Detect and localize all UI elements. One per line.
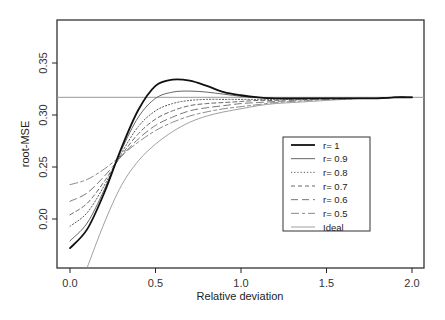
x-axis: 0.00.51.01.52.0 xyxy=(62,268,419,289)
y-tick-label: 0.35 xyxy=(37,52,49,73)
legend-label: r= 0.8 xyxy=(323,167,348,178)
y-tick-label: 0.20 xyxy=(37,208,49,229)
y-axis: 0.200.250.300.35 xyxy=(37,52,57,229)
x-tick-label: 0.5 xyxy=(148,277,163,289)
y-tick-label: 0.30 xyxy=(37,104,49,125)
x-tick-label: 0.0 xyxy=(62,277,77,289)
legend-label: r= 0.6 xyxy=(323,194,348,205)
legend-label: r= 0.5 xyxy=(323,208,348,219)
chart: 0.00.51.01.52.0 0.200.250.300.35 Relativ… xyxy=(0,0,445,320)
x-tick-label: 2.0 xyxy=(404,277,419,289)
x-axis-title: Relative deviation xyxy=(197,290,284,302)
y-axis-title: root-MSE xyxy=(19,121,31,167)
x-tick-label: 1.0 xyxy=(233,277,248,289)
x-tick-label: 1.5 xyxy=(319,277,334,289)
legend-label: r= 1 xyxy=(323,140,340,151)
y-tick-label: 0.25 xyxy=(37,156,49,177)
legend-label: r= 0.7 xyxy=(323,181,348,192)
legend-label: Ideal xyxy=(323,222,344,233)
legend-label: r= 0.9 xyxy=(323,153,348,164)
legend: r= 1r= 0.9r= 0.8r= 0.7r= 0.6r= 0.5Ideal xyxy=(283,137,370,233)
